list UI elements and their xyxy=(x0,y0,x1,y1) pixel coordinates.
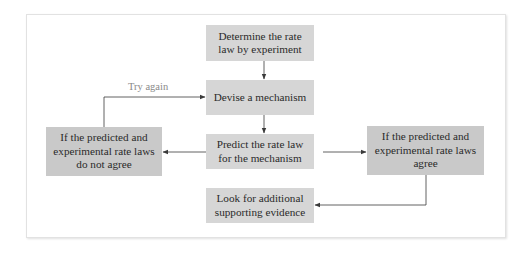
node-laws-agree: If the predicted and experimental rate l… xyxy=(367,126,484,175)
node-predict-rate-law: Predict the rate law for the mechanism xyxy=(206,134,314,169)
node-look-for-evidence: Look for additional supporting evidence xyxy=(206,188,314,223)
node-determine-rate-law: Determine the rate law by experiment xyxy=(206,25,314,61)
node-laws-do-not-agree: If the predicted and experimental rate l… xyxy=(46,127,162,176)
node-label: Look for additional supporting evidence xyxy=(210,192,310,219)
node-label: If the predicted and experimental rate l… xyxy=(371,130,480,171)
node-devise-mechanism: Devise a mechanism xyxy=(206,80,314,115)
node-label: If the predicted and experimental rate l… xyxy=(50,131,158,172)
node-label: Predict the rate law for the mechanism xyxy=(210,138,310,165)
edge-label-try-again: Try again xyxy=(128,81,168,92)
node-label: Devise a mechanism xyxy=(214,91,307,105)
node-label: Determine the rate law by experiment xyxy=(210,30,310,57)
